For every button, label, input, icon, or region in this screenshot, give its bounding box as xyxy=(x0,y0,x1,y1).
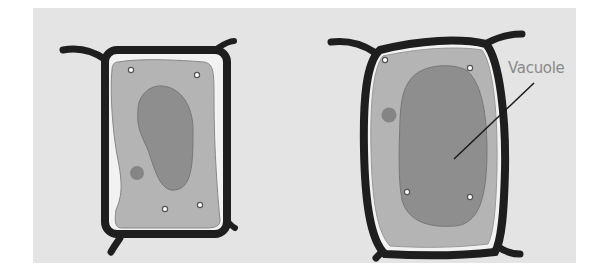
vacuole-label: Vacuole xyxy=(508,59,565,77)
organelle xyxy=(467,194,472,199)
organelle xyxy=(162,206,167,211)
organelle xyxy=(194,72,199,77)
organelle xyxy=(128,67,133,72)
vacuole xyxy=(399,66,487,227)
nucleus xyxy=(382,108,397,123)
left-cell xyxy=(63,41,235,252)
nucleus xyxy=(130,166,144,180)
cell-wall-stub-top-right xyxy=(487,34,522,43)
organelle xyxy=(382,57,387,62)
organelle xyxy=(467,65,472,70)
organelle xyxy=(404,189,409,194)
cell-wall-stub-top-left xyxy=(63,49,106,60)
plant-cells-diagram xyxy=(0,0,604,273)
organelle xyxy=(197,202,202,207)
right-cell xyxy=(331,34,534,258)
cell-wall-stub-bottom-left xyxy=(111,238,120,252)
cell-wall-stub-top-left xyxy=(331,41,374,52)
